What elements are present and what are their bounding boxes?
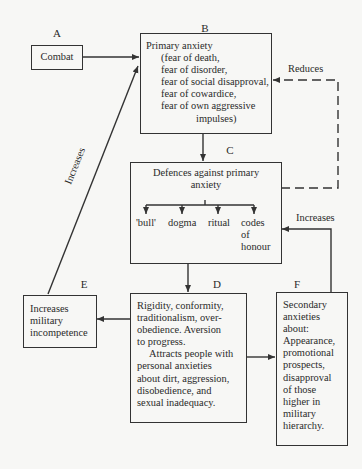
edge-label-reduces: Reduces (288, 63, 323, 75)
node-a-combat: Combat (31, 45, 83, 70)
node-d-line: sexual inadequacy. (137, 397, 246, 409)
defence-codes-of-honour: codes of honour (241, 217, 270, 253)
node-f-line: Appearance, (283, 335, 347, 347)
node-f-line: hierarchy. (283, 420, 347, 432)
node-d-line: obedience. Aversion (137, 324, 246, 336)
node-e-incompetence: Increases military incompetence (23, 295, 97, 348)
node-e-line: incompetence (30, 327, 96, 339)
node-d-line: about dirt, aggression, (137, 373, 246, 385)
node-b-title: Primary anxiety (146, 40, 271, 52)
diagram-canvas: A B C E D F Combat Primary anxiety (fear… (0, 0, 362, 469)
node-label-f: F (294, 278, 300, 290)
codes-line: honour (241, 241, 270, 253)
codes-line: codes (241, 217, 270, 229)
node-b-line: fear of cowardice, (146, 88, 271, 100)
defence-ritual: ritual (208, 217, 230, 229)
codes-line: of (241, 229, 270, 241)
node-d-line: Rigidity, conformity, (137, 300, 246, 312)
node-f-line: Secondary (283, 299, 347, 311)
node-f-line: military (283, 408, 347, 420)
node-c-title: Defences against primary (131, 167, 281, 179)
node-f-line: about: (283, 323, 347, 335)
node-label-e: E (81, 278, 88, 290)
node-f-secondary-anxieties: Secondary anxieties about: Appearance, p… (276, 292, 348, 446)
node-b-primary-anxiety: Primary anxiety (fear of death, fear of … (140, 33, 272, 134)
node-d-line: to progress. (137, 336, 246, 348)
node-b-line: fear of own aggressive (146, 100, 271, 112)
node-label-d: D (213, 278, 221, 290)
node-d-line: Attracts people with (137, 348, 246, 360)
node-d-rigidity: Rigidity, conformity, traditionalism, ov… (130, 293, 247, 423)
node-f-line: anxieties (283, 311, 347, 323)
edge-label-increases-f-c: Increases (296, 212, 335, 224)
arrow-c-reduces-b (273, 80, 338, 188)
node-f-line: of those (283, 384, 347, 396)
node-d-line: personal anxieties (137, 360, 246, 372)
defence-dogma: dogma (168, 217, 196, 229)
node-label-a: A (53, 27, 61, 39)
node-f-line: prospects, (283, 359, 347, 371)
node-d-line: disobedience, and (137, 385, 246, 397)
node-b-line: fear of social disapproval, (146, 76, 271, 88)
node-a-text: Combat (32, 51, 82, 63)
arrow-f-increases-c (282, 229, 331, 292)
node-b-line: impulses) (146, 113, 271, 125)
node-label-c: C (226, 144, 233, 156)
node-f-line: promotional (283, 347, 347, 359)
arrow-e-increases-b (48, 66, 138, 294)
node-b-line: fear of disorder, (146, 64, 271, 76)
node-f-line: higher in (283, 396, 347, 408)
node-b-line: (fear of death, (146, 52, 271, 64)
defence-bull: 'bull' (136, 217, 156, 229)
node-c-title: anxiety (131, 179, 281, 191)
node-f-line: disapproval (283, 372, 347, 384)
node-e-line: Increases (30, 303, 96, 315)
node-e-line: military (30, 315, 96, 327)
node-d-line: traditionalism, over- (137, 312, 246, 324)
